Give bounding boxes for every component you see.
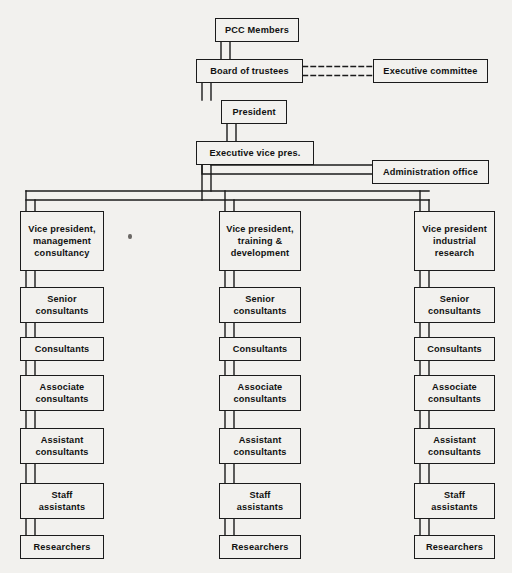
org-node-c-l[interactable]: Consultants: [20, 337, 104, 361]
org-node-sa-r[interactable]: Staff assistants: [414, 483, 495, 519]
org-node-ac-r[interactable]: Associate consultants: [414, 375, 495, 411]
org-node-admin-office[interactable]: Administration office: [372, 160, 489, 184]
org-node-sc-m[interactable]: Senior consultants: [219, 287, 301, 323]
org-node-r-r[interactable]: Researchers: [414, 535, 495, 559]
org-node-as-r[interactable]: Assistant consultants: [414, 428, 495, 464]
org-node-exec-committee[interactable]: Executive committee: [373, 59, 488, 83]
org-node-c-r[interactable]: Consultants: [414, 337, 495, 361]
org-node-vp-mgmt[interactable]: Vice president, management consultancy: [20, 211, 104, 271]
org-node-vp-research[interactable]: Vice president industrial research: [414, 211, 495, 271]
org-node-vp-training[interactable]: Vice president, training & development: [219, 211, 301, 271]
org-node-ac-m[interactable]: Associate consultants: [219, 375, 301, 411]
org-node-president[interactable]: President: [221, 100, 287, 124]
org-chart-canvas: PCC MembersBoard of trusteesExecutive co…: [0, 0, 512, 573]
org-node-sc-r[interactable]: Senior consultants: [414, 287, 495, 323]
org-node-ac-l[interactable]: Associate consultants: [20, 375, 104, 411]
org-node-sc-l[interactable]: Senior consultants: [20, 287, 104, 323]
org-node-as-l[interactable]: Assistant consultants: [20, 428, 104, 464]
org-node-board-trustees[interactable]: Board of trustees: [196, 59, 303, 83]
org-node-r-l[interactable]: Researchers: [20, 535, 104, 559]
org-node-as-m[interactable]: Assistant consultants: [219, 428, 301, 464]
org-node-pcc-members[interactable]: PCC Members: [215, 18, 299, 42]
org-node-r-m[interactable]: Researchers: [219, 535, 301, 559]
org-node-c-m[interactable]: Consultants: [219, 337, 301, 361]
org-node-sa-l[interactable]: Staff assistants: [20, 483, 104, 519]
scan-speck: [128, 234, 132, 239]
org-node-exec-vice-pres[interactable]: Executive vice pres.: [196, 141, 314, 165]
org-node-sa-m[interactable]: Staff assistants: [219, 483, 301, 519]
